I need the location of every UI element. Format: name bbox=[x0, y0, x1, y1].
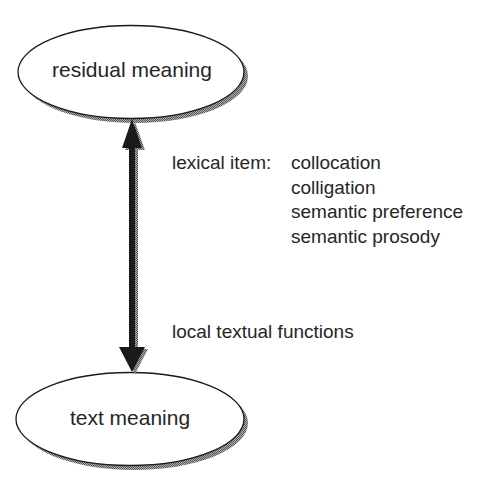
text-meaning-label: text meaning bbox=[70, 406, 190, 430]
lexical-item-components: collocation colligation semantic prefere… bbox=[291, 151, 463, 249]
component-collocation: collocation bbox=[291, 151, 463, 176]
component-semantic-preference: semantic preference bbox=[291, 200, 463, 225]
lexical-item-heading: lexical item: bbox=[172, 151, 271, 175]
residual-meaning-label: residual meaning bbox=[52, 58, 212, 82]
component-semantic-prosody: semantic prosody bbox=[291, 225, 463, 250]
local-textual-functions-label: local textual functions bbox=[172, 320, 354, 344]
component-colligation: colligation bbox=[291, 176, 463, 201]
arrow-body bbox=[119, 119, 145, 372]
arrow-shaft bbox=[129, 146, 135, 348]
double-headed-arrow bbox=[119, 119, 148, 374]
